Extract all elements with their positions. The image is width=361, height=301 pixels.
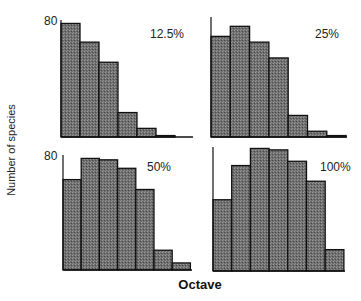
panel-label-12-5: 12.5%	[150, 27, 184, 41]
panel-label-100: 100%	[320, 160, 351, 174]
bar	[288, 115, 307, 137]
panel-50pct	[63, 155, 192, 270]
bar	[250, 42, 269, 137]
bar	[250, 148, 269, 271]
panel-label-50: 50%	[147, 160, 171, 174]
bar	[308, 131, 327, 137]
bar	[81, 158, 99, 270]
bar	[211, 36, 230, 137]
bar	[154, 250, 172, 270]
panel-label-25: 25%	[315, 27, 339, 41]
bar	[80, 42, 99, 137]
bar	[213, 200, 232, 271]
bar	[269, 150, 288, 271]
bar	[232, 166, 251, 271]
y-tick-80-top: 80	[44, 14, 57, 28]
bar	[118, 168, 136, 270]
bar	[136, 189, 154, 270]
bar	[269, 58, 288, 137]
x-axis-label: Octave	[150, 277, 250, 292]
y-tick-80-bottom: 80	[44, 149, 57, 163]
bar	[307, 181, 326, 271]
y-axis-label: Number of species	[3, 60, 19, 240]
bar	[172, 263, 190, 270]
bar	[288, 161, 307, 271]
bar	[325, 250, 344, 271]
bar	[118, 113, 137, 137]
bar	[63, 180, 81, 270]
bar	[99, 160, 117, 270]
bar	[230, 26, 249, 137]
bar	[99, 62, 118, 137]
bar	[137, 128, 156, 137]
bar	[61, 23, 80, 137]
